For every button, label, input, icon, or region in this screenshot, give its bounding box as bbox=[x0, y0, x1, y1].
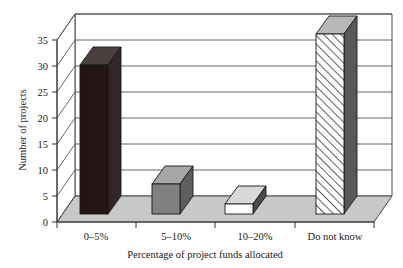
bar-side-face bbox=[344, 16, 357, 214]
plot-left-wall bbox=[57, 14, 75, 222]
x-axis-category-labels: 0–5% 5–10% 10–20% Do not know bbox=[84, 231, 363, 242]
category-label: Do not know bbox=[308, 231, 363, 242]
y-axis-tick-labels: 0 5 10 15 20 25 30 35 bbox=[38, 35, 49, 228]
y-tick-label: 20 bbox=[38, 113, 49, 124]
bar-front-face bbox=[225, 204, 253, 214]
category-label: 10–20% bbox=[238, 231, 273, 242]
bar-front-face bbox=[152, 184, 180, 214]
y-tick-label: 15 bbox=[38, 139, 49, 150]
bar-chart: 0 5 10 15 20 25 30 35 bbox=[0, 0, 403, 268]
y-tick-label: 0 bbox=[43, 217, 48, 228]
y-tick-label: 5 bbox=[43, 191, 48, 202]
bar-side-face bbox=[108, 47, 121, 214]
y-tick-label: 10 bbox=[38, 165, 49, 176]
category-label: 0–5% bbox=[84, 231, 109, 242]
x-axis-title: Percentage of project funds allocated bbox=[127, 249, 283, 260]
bar-0-5-percent bbox=[80, 47, 121, 214]
y-tick-label: 30 bbox=[38, 61, 49, 72]
bar-front-face bbox=[316, 34, 344, 214]
y-tick-label: 25 bbox=[38, 87, 49, 98]
y-tick-label: 35 bbox=[38, 35, 49, 46]
y-axis-ticks bbox=[52, 40, 57, 222]
bar-do-not-know bbox=[316, 16, 357, 214]
bar-front-face bbox=[80, 65, 108, 214]
y-axis-title: Number of projects bbox=[17, 89, 28, 171]
category-label: 5–10% bbox=[161, 231, 191, 242]
chart-canvas: 0 5 10 15 20 25 30 35 bbox=[0, 0, 403, 268]
x-axis-ticks bbox=[57, 222, 374, 228]
